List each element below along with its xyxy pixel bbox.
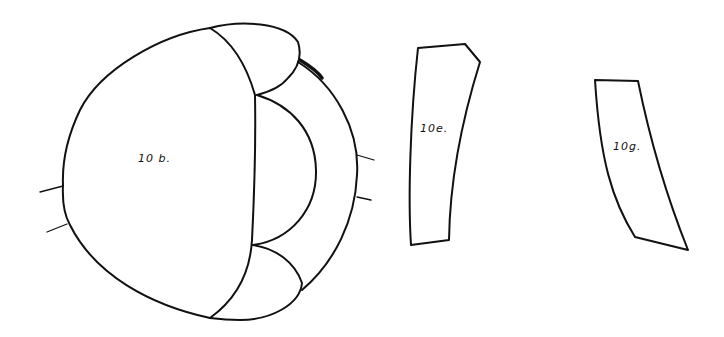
piece-10g-label: 10g. bbox=[613, 140, 641, 153]
piece-10g-outline bbox=[595, 80, 688, 250]
piece-10b-label: 10 b. bbox=[138, 152, 171, 165]
piece-10b-outline bbox=[63, 28, 255, 318]
pattern-diagram bbox=[0, 0, 724, 337]
piece-10e-label: 10e. bbox=[420, 122, 448, 135]
tick-line bbox=[47, 224, 67, 232]
tick-line bbox=[357, 155, 374, 160]
thick-mark bbox=[300, 60, 322, 78]
upper-lobe-outline bbox=[210, 24, 300, 95]
tick-line bbox=[40, 186, 63, 192]
outer-arc-outline bbox=[298, 62, 357, 290]
piece-10e-outline bbox=[410, 44, 480, 245]
lower-lobe-outline bbox=[210, 245, 302, 320]
inner-arc-outline bbox=[253, 95, 316, 245]
tick-line bbox=[357, 197, 371, 200]
